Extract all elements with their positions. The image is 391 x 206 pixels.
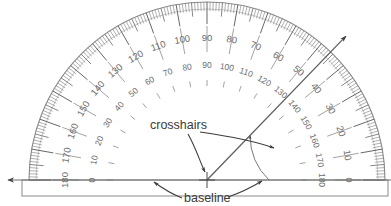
protractor-diagram: 0102030405060708090100110120130140150160…	[0, 0, 391, 206]
outer-scale-number: 140	[88, 78, 107, 97]
crosshairs-leader-lines	[188, 132, 274, 172]
outer-scale-number: 30	[323, 101, 338, 116]
outer-scale-number: 60	[271, 49, 286, 64]
inner-scale-number: 160	[308, 132, 322, 149]
inner-scale-number: 110	[238, 65, 254, 79]
outer-scale-number: 100	[173, 32, 191, 46]
outer-scale-number: 120	[126, 47, 145, 64]
degree-ticks	[29, 2, 385, 180]
inner-scale-number: 90	[202, 60, 212, 70]
outer-scale-number: 110	[149, 38, 167, 54]
callout-label-crosshairs: crosshairs	[150, 118, 207, 132]
callout-label-baseline: baseline	[184, 191, 231, 205]
outer-scale-number: 80	[226, 33, 238, 46]
outer-scale-number: 160	[65, 122, 81, 141]
outer-scale-numbers: 0102030405060708090100110120130140150160…	[59, 32, 356, 188]
inner-scale-number: 20	[93, 134, 106, 147]
inner-scale-number: 70	[162, 66, 175, 79]
inner-scale-number: 10	[88, 154, 100, 165]
inner-scale-number: 130	[272, 84, 290, 101]
inner-scale-number: 40	[112, 99, 126, 113]
inner-scale-number: 100	[219, 61, 235, 73]
inner-scale-number: 170	[314, 152, 326, 168]
outer-scale-number: 70	[249, 39, 263, 53]
outer-scale-number: 10	[341, 149, 354, 161]
inner-scale-number: 60	[143, 74, 156, 88]
outer-scale-number: 170	[59, 146, 73, 164]
inner-scale-number: 150	[299, 114, 315, 132]
outer-scale-number: 130	[105, 61, 124, 80]
outer-scale-number: 20	[334, 124, 348, 138]
inner-scale-number: 30	[101, 116, 115, 129]
inner-scale-number: 120	[256, 73, 274, 89]
protractor-svg: 0102030405060708090100110120130140150160…	[0, 0, 391, 206]
inner-scale-numbers: 1801701601501401301201101009080706050403…	[87, 60, 327, 187]
outer-scale-number: 40	[309, 81, 324, 96]
inner-scale-number: 50	[126, 85, 140, 99]
outer-scale-number: 50	[291, 63, 306, 78]
inner-scale-number: 80	[182, 61, 193, 73]
inner-scale-number: 140	[287, 98, 304, 116]
outer-scale-number: 90	[202, 32, 213, 43]
outer-scale-number: 150	[74, 99, 91, 118]
